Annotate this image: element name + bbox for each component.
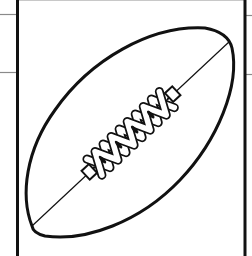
illustration-canvas	[0, 0, 252, 256]
football-drawing	[0, 0, 252, 256]
